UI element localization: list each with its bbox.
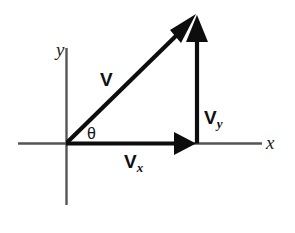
vector-diagram-canvas (0, 0, 295, 233)
vector-vy-label-base: V (204, 107, 217, 128)
vector-vx-label: Vx (124, 152, 143, 171)
vector-diagram: y x V θ Vx Vy (0, 0, 295, 233)
x-axis-label: x (266, 133, 274, 152)
vector-vy-label: Vy (204, 108, 222, 127)
vector-vx-arrowhead (174, 132, 196, 155)
y-axis-label: y (56, 40, 64, 59)
vector-vx-label-subscript: x (137, 160, 144, 175)
angle-theta-label: θ (87, 126, 96, 142)
vector-vy-label-subscript: y (217, 116, 223, 131)
vector-vx-label-base: V (124, 151, 137, 172)
vector-v-label: V (100, 70, 113, 89)
vector-v-shaft (67, 31, 181, 143)
